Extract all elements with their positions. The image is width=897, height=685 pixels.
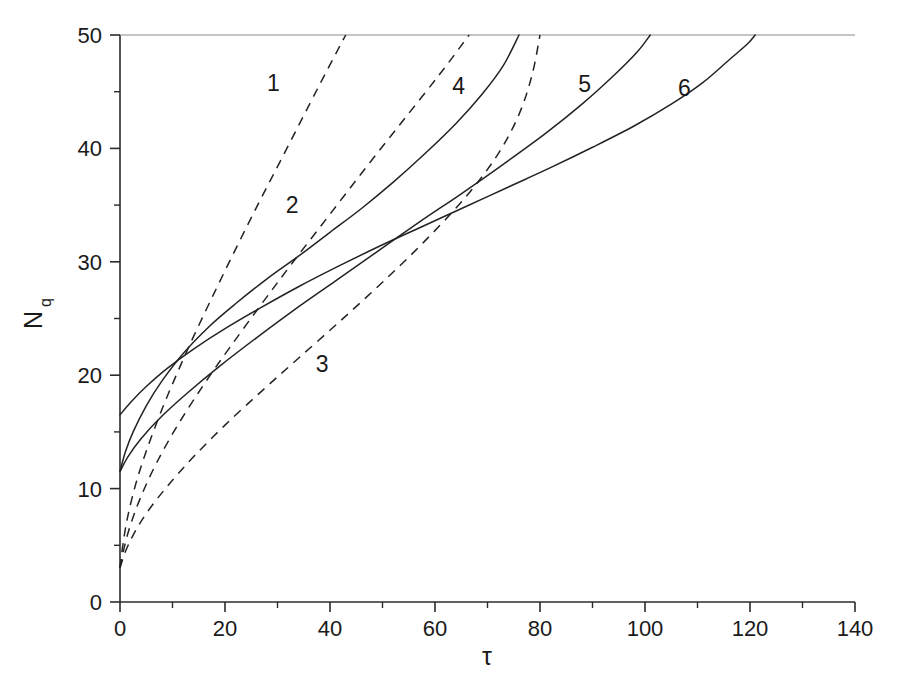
y-tick-label: 30: [78, 250, 102, 275]
x-tick-label: 80: [528, 616, 552, 641]
x-tick-label: 0: [114, 616, 126, 641]
curve-6: [120, 35, 755, 415]
x-tick-label: 20: [213, 616, 237, 641]
axis-ticks: [110, 35, 855, 612]
y-axis-title: N q: [19, 298, 54, 329]
curve-label-1: 1: [267, 70, 280, 96]
data-curves: [120, 35, 755, 568]
curve-2: [120, 35, 469, 568]
line-chart: 02040608010012014001020304050 123456 N q…: [0, 0, 897, 685]
x-tick-label: 60: [423, 616, 447, 641]
y-tick-label: 10: [78, 477, 102, 502]
curve-3: [120, 35, 540, 568]
y-axis-title-subscript: q: [37, 298, 54, 307]
curve-label-2: 2: [286, 192, 299, 218]
y-tick-label: 50: [78, 23, 102, 48]
y-tick-label: 0: [90, 590, 102, 615]
x-tick-label: 120: [732, 616, 769, 641]
curve-label-6: 6: [678, 75, 691, 101]
y-tick-label: 20: [78, 363, 102, 388]
plot-frame: [120, 35, 855, 602]
curve-1: [120, 35, 346, 568]
curve-5: [120, 35, 650, 472]
curve-labels: 123456: [267, 70, 691, 377]
y-tick-label: 40: [78, 136, 102, 161]
chart-figure: 02040608010012014001020304050 123456 N q…: [0, 0, 897, 685]
x-tick-label: 100: [627, 616, 664, 641]
x-tick-label: 40: [318, 616, 342, 641]
x-axis-title: τ: [482, 642, 492, 670]
axis-tick-labels: 02040608010012014001020304050: [78, 23, 874, 641]
y-axis-title-main: N: [19, 311, 47, 329]
curve-label-3: 3: [316, 351, 329, 377]
curve-label-4: 4: [452, 73, 465, 99]
curve-4: [120, 35, 519, 472]
curve-label-5: 5: [578, 71, 591, 97]
x-tick-label: 140: [837, 616, 874, 641]
